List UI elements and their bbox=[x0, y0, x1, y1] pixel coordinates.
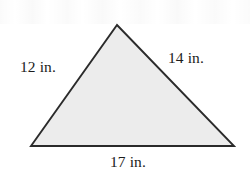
triangle-polygon bbox=[31, 25, 234, 146]
side-length-label-left: 12 in. bbox=[20, 59, 56, 75]
triangle-figure: 12 in. 14 in. 17 in. bbox=[0, 0, 250, 176]
side-length-label-right: 14 in. bbox=[168, 50, 204, 66]
side-length-label-bottom: 17 in. bbox=[110, 154, 146, 170]
triangle-shape bbox=[0, 0, 250, 176]
